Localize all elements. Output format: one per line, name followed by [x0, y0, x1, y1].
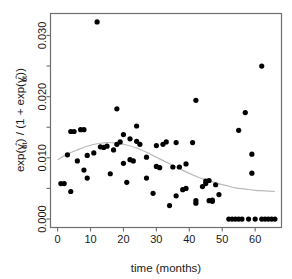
data-point [68, 189, 73, 194]
data-point [111, 147, 116, 152]
data-point [81, 167, 86, 172]
data-point [137, 142, 142, 147]
data-point [157, 165, 162, 170]
data-point [259, 63, 264, 68]
data-point [190, 140, 195, 145]
data-point [81, 127, 86, 132]
data-point [210, 199, 215, 204]
data-point [183, 186, 188, 191]
data-point [177, 164, 182, 169]
svg-text:exp(γ̂0t) / (1 + exp(γ̂0t)): exp(γ̂0t) / (1 + exp(γ̂0t)) [14, 68, 29, 172]
data-point [91, 150, 96, 155]
data-point [134, 123, 139, 128]
data-point [164, 139, 169, 144]
y-axis-title: exp(γ̂0t) / (1 + exp(γ̂0t)) [14, 68, 29, 172]
data-point [118, 139, 123, 144]
data-point [121, 132, 126, 137]
data-point [249, 152, 254, 157]
data-point [108, 171, 113, 176]
x-axis-tick-labels: 0102030405060 [55, 233, 262, 245]
data-point [62, 181, 67, 186]
plot-frame [51, 14, 282, 228]
data-point [127, 136, 132, 141]
data-point [131, 158, 136, 163]
data-point [174, 193, 179, 198]
x-tick-label: 60 [249, 233, 261, 245]
data-point [154, 143, 159, 148]
data-point [213, 182, 218, 187]
data-point [183, 161, 188, 166]
data-point [104, 144, 109, 149]
data-point [85, 153, 90, 158]
data-point [236, 128, 241, 133]
data-point [272, 216, 277, 221]
y-tick-label: 0.030 [36, 22, 48, 50]
data-point [239, 216, 244, 221]
data-point [174, 140, 179, 145]
data-point [216, 192, 221, 197]
x-tick-label: 50 [216, 233, 228, 245]
x-tick-label: 10 [84, 233, 96, 245]
data-point [193, 201, 198, 206]
y-tick-label: 0.000 [36, 205, 48, 233]
x-tick-label: 40 [183, 233, 195, 245]
data-point [121, 161, 126, 166]
scatter-plot-figure: 0.0000.0100.0200.030 0102030405060 time … [0, 0, 292, 279]
data-point [95, 19, 100, 24]
data-point [71, 129, 76, 134]
data-point [253, 216, 258, 221]
data-point [124, 180, 129, 185]
x-tick-label: 30 [150, 233, 162, 245]
y-tick-label: 0.020 [36, 83, 48, 111]
x-tick-label: 20 [117, 233, 129, 245]
y-tick-label: 0.010 [36, 144, 48, 172]
data-point [144, 175, 149, 180]
data-point [243, 110, 248, 115]
data-point [170, 164, 175, 169]
data-point [144, 155, 149, 160]
loess-smooth-curve [58, 143, 275, 192]
data-point [65, 152, 70, 157]
data-point [167, 203, 172, 208]
scatter-points [58, 19, 277, 221]
data-point [114, 106, 119, 111]
x-tick-label: 0 [55, 233, 61, 245]
data-point [193, 98, 198, 103]
data-point [206, 178, 211, 183]
data-point [249, 171, 254, 176]
plot-canvas: 0.0000.0100.0200.030 0102030405060 time … [0, 0, 292, 279]
x-axis-title: time (months) [131, 262, 201, 274]
data-point [150, 191, 155, 196]
data-point [246, 216, 251, 221]
data-point [75, 158, 80, 163]
y-axis-tick-labels: 0.0000.0100.0200.030 [36, 22, 48, 233]
data-point [85, 175, 90, 180]
